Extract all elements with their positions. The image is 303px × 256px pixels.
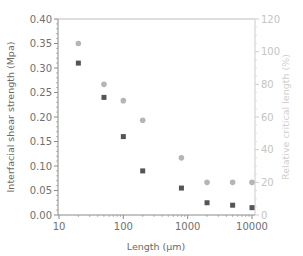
y2-tick-label: 120 xyxy=(261,14,280,25)
y2-tick-label: 20 xyxy=(261,177,274,188)
y2-tick-label: 100 xyxy=(261,46,280,57)
square-marker xyxy=(121,134,126,139)
y-tick-label: 0.40 xyxy=(30,14,52,25)
y-tick-label: 0.00 xyxy=(30,210,52,221)
y-tick-label: 0.30 xyxy=(30,63,52,74)
square-marker xyxy=(140,168,145,173)
square-marker xyxy=(250,205,255,210)
y-axis-left-title: Interfacial shear strength (Mpa) xyxy=(5,42,16,193)
y-axis-left: 0.000.050.100.150.200.250.300.350.40 xyxy=(30,14,58,221)
y-tick-label: 0.15 xyxy=(30,136,52,147)
circle-marker xyxy=(249,180,255,186)
y-axis-right-title: Relative critical length (%) xyxy=(280,54,291,180)
square-marker xyxy=(179,186,184,191)
y2-tick-label: 80 xyxy=(261,79,274,90)
y-tick-label: 0.25 xyxy=(30,87,52,98)
y-tick-label: 0.05 xyxy=(30,185,52,196)
circle-marker xyxy=(204,180,210,186)
square-marker xyxy=(205,200,210,205)
y2-tick-label: 40 xyxy=(261,144,274,155)
y-axis-right: 020406080100120 xyxy=(255,14,280,221)
series-relative-critical-length xyxy=(76,41,255,185)
square-marker xyxy=(76,61,81,66)
x-axis-title: Length (μm) xyxy=(127,241,186,252)
y2-tick-label: 0 xyxy=(261,210,267,221)
circle-marker xyxy=(76,41,82,47)
y2-tick-label: 60 xyxy=(261,112,274,123)
series-layer xyxy=(76,41,255,210)
square-marker xyxy=(101,95,106,100)
circle-marker xyxy=(121,98,127,104)
circle-marker xyxy=(101,82,107,88)
chart: 0.000.050.100.150.200.250.300.350.40 020… xyxy=(0,0,303,256)
x-axis: 10100100010000 xyxy=(53,215,268,232)
circle-marker xyxy=(140,117,146,123)
x-tick-label: 10000 xyxy=(236,221,268,232)
x-tick-label: 1000 xyxy=(175,221,200,232)
y-tick-label: 0.20 xyxy=(30,112,52,123)
y-tick-label: 0.35 xyxy=(30,38,52,49)
circle-marker xyxy=(230,180,236,186)
x-tick-label: 10 xyxy=(53,221,66,232)
x-tick-label: 100 xyxy=(114,221,133,232)
circle-marker xyxy=(179,155,185,161)
square-marker xyxy=(230,203,235,208)
y-tick-label: 0.10 xyxy=(30,161,52,172)
